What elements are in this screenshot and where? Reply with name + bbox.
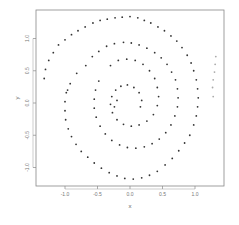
data-point (142, 63, 144, 65)
data-point (156, 87, 158, 89)
data-point (153, 114, 155, 116)
data-point (71, 34, 73, 36)
data-point (141, 100, 143, 102)
x-tick-label: -0.5 (93, 191, 102, 197)
data-point (176, 40, 178, 42)
y-axis: -1.0-0.50.00.51.0 (24, 35, 36, 172)
x-tick-label: 0.5 (159, 191, 166, 197)
data-point (92, 22, 94, 24)
data-point (186, 54, 188, 56)
data-point (98, 51, 100, 53)
y-tick-label: -0.5 (24, 131, 30, 140)
data-point (171, 71, 173, 73)
data-point (124, 178, 126, 180)
data-point (166, 63, 168, 65)
data-point (143, 146, 145, 148)
data-point (80, 150, 82, 152)
data-point (115, 89, 117, 91)
data-point (52, 52, 54, 54)
data-point (98, 80, 100, 82)
data-point (127, 147, 129, 149)
data-point (212, 87, 214, 89)
data-point (99, 125, 101, 127)
data-point (64, 39, 66, 41)
data-point (181, 47, 183, 49)
data-point (195, 115, 197, 117)
data-point (164, 164, 166, 166)
data-point (67, 89, 69, 91)
data-point (212, 96, 214, 98)
data-point (214, 71, 216, 73)
data-point (48, 60, 50, 62)
data-point (150, 22, 152, 24)
data-point (138, 92, 140, 94)
data-points (43, 16, 216, 180)
data-point (119, 144, 121, 146)
data-point (106, 18, 108, 20)
data-point (170, 124, 172, 126)
x-tick-label: 0.0 (127, 191, 134, 197)
data-point (99, 20, 101, 22)
data-point (156, 105, 158, 107)
plot-frame (36, 10, 224, 186)
data-point (215, 56, 217, 58)
data-point (116, 100, 118, 102)
data-point (138, 124, 140, 126)
data-point (93, 98, 95, 100)
data-point (69, 83, 71, 85)
data-point (197, 88, 199, 90)
data-point (127, 84, 129, 86)
data-point (121, 16, 123, 18)
data-point (158, 138, 160, 140)
data-point (45, 69, 47, 71)
data-point (108, 172, 110, 174)
data-point (133, 87, 135, 89)
data-point (154, 78, 156, 80)
data-point (91, 56, 93, 58)
data-point (156, 170, 158, 172)
data-point (123, 123, 125, 125)
data-point (104, 133, 106, 135)
x-axis-title: x (129, 203, 132, 209)
data-point (129, 16, 131, 18)
data-point (174, 115, 176, 117)
data-point (137, 17, 139, 19)
data-point (177, 97, 179, 99)
data-point (140, 106, 142, 108)
data-point (160, 57, 162, 59)
data-point (178, 150, 180, 152)
data-point (93, 107, 95, 109)
y-axis-title: y (14, 97, 20, 100)
data-point (177, 106, 179, 108)
data-point (193, 124, 195, 126)
data-point (95, 116, 97, 118)
data-point (65, 119, 67, 121)
data-point (120, 85, 122, 87)
data-point (146, 120, 148, 122)
data-point (149, 174, 151, 176)
data-point (165, 132, 167, 134)
data-point (77, 30, 79, 32)
data-point (110, 65, 112, 67)
data-point (75, 143, 77, 145)
data-point (158, 96, 160, 98)
y-tick-label: 0.5 (24, 67, 30, 74)
x-tick-label: 1.0 (192, 191, 199, 197)
data-point (43, 78, 45, 80)
data-point (197, 97, 199, 99)
data-point (171, 158, 173, 160)
data-point (146, 47, 148, 49)
data-point (193, 70, 195, 72)
data-point (64, 110, 66, 112)
data-point (67, 128, 69, 130)
data-point (95, 89, 97, 91)
data-point (164, 30, 166, 32)
data-point (214, 63, 216, 65)
data-point (111, 96, 113, 98)
data-point (112, 112, 114, 114)
x-tick-label: -1.0 (61, 191, 70, 197)
data-point (85, 65, 87, 67)
data-point (189, 134, 191, 136)
data-point (134, 60, 136, 62)
x-axis: -1.0-0.50.00.51.0 (61, 186, 199, 197)
